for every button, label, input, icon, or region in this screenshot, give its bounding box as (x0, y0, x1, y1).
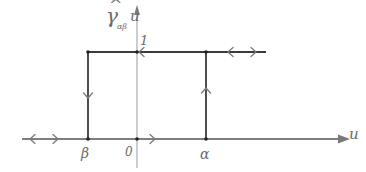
vertex-origin (135, 137, 139, 141)
tick-label-alpha: α (200, 147, 209, 161)
hysteresis-diagram: ^γαβu 1 β 0 α u (0, 0, 366, 172)
tick-label-beta: β (81, 146, 89, 160)
diagram-graphic (0, 0, 366, 172)
tick-label-origin: 0 (125, 146, 133, 158)
vertex-alpha-top (204, 50, 208, 54)
y-axis-label-subscript: αβ (117, 22, 127, 31)
x-axis-label: u (349, 127, 359, 142)
y-axis-label: ^γαβu (106, 6, 140, 26)
vertex-alpha (204, 137, 208, 141)
y-axis-label-accent: ^ (109, 0, 122, 14)
vertex-beta-top (86, 50, 90, 54)
vertex-beta (86, 137, 90, 141)
tick-label-one: 1 (140, 34, 148, 47)
y-axis-label-argument: u (130, 7, 140, 25)
vertex-one (135, 50, 139, 54)
